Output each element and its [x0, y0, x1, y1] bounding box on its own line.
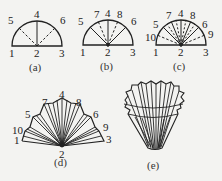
fig-b-point-5: 5: [78, 15, 84, 27]
fig-e-caption: (e): [147, 159, 160, 172]
fig-c-point-4: 4: [178, 7, 184, 19]
fig-b-point-7: 7: [94, 8, 100, 20]
fig-c-caption: (c): [173, 60, 186, 73]
folding-diagram: 5 4 6 1 2 3 (a) 5 7 4 8 6 1 2 3 (b) 10 5…: [0, 0, 222, 181]
fig-d-caption: (d): [54, 156, 67, 169]
fig-c-point-3: 3: [203, 46, 209, 58]
fig-d-point-9: 9: [103, 121, 109, 133]
fig-d-point-8: 8: [76, 96, 82, 108]
fig-d-point-6: 6: [93, 108, 99, 120]
figure-a: [12, 21, 62, 46]
fig-c-point-2: 2: [178, 46, 184, 58]
fig-d-point-5: 5: [25, 108, 31, 120]
fig-b-point-4: 4: [105, 7, 111, 19]
figure-e: [124, 81, 184, 150]
fig-b-point-8: 8: [117, 8, 123, 20]
figure-b: [83, 20, 133, 46]
figure-d: [22, 98, 104, 147]
fig-a-point-5: 5: [8, 14, 14, 26]
figure-c: [156, 20, 206, 46]
fig-d-point-7: 7: [42, 96, 48, 108]
fig-c-point-10: 10: [145, 31, 157, 43]
fig-b-point-6: 6: [131, 15, 137, 27]
fig-b-point-1: 1: [80, 46, 86, 58]
fig-c-point-9: 9: [208, 28, 214, 40]
fig-c-point-7: 7: [166, 9, 172, 21]
fig-a-point-2: 2: [34, 47, 40, 59]
fig-b-point-2: 2: [105, 46, 111, 58]
fig-a-point-4: 4: [34, 8, 40, 20]
fig-c-point-1: 1: [153, 46, 159, 58]
fig-a-caption: (a): [29, 61, 42, 74]
fig-d-point-4: 4: [59, 88, 65, 100]
fig-a-point-3: 3: [59, 47, 65, 59]
fig-c-point-5: 5: [153, 18, 159, 30]
fig-d-point-10: 10: [12, 124, 24, 136]
fig-a-point-1: 1: [9, 47, 15, 59]
fig-a-point-6: 6: [60, 14, 66, 26]
fig-d-point-3: 3: [106, 133, 112, 145]
fig-b-point-3: 3: [130, 46, 136, 58]
fig-c-point-8: 8: [190, 9, 196, 21]
fig-b-caption: (b): [100, 60, 113, 73]
